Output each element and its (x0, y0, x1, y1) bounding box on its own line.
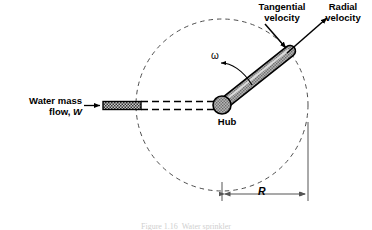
label-water-mass-flow-line2: flow, (49, 106, 73, 117)
label-tangential-velocity: Tangential velocity (246, 2, 318, 23)
inlet-pipe (103, 102, 141, 110)
tangential-velocity-arrow (265, 24, 286, 48)
label-radius-r: R (258, 186, 266, 198)
rotating-arm (222, 50, 290, 105)
radial-velocity-arrow (287, 18, 327, 53)
label-water-mass-flow-line1: Water mass (29, 95, 82, 106)
dimension-arrow-right (300, 192, 307, 197)
figure-rotating-arm-sprinkler: Tangential velocity Radial velocity Wate… (0, 0, 372, 230)
label-hub: Hub (205, 117, 249, 128)
label-radial-velocity: Radial velocity (314, 2, 372, 23)
label-omega-angular-velocity: ω (211, 50, 219, 61)
label-water-mass-flow-symbol: W (73, 106, 82, 117)
hub-circle (213, 96, 231, 114)
dimension-arrow-left (224, 192, 231, 197)
label-water-mass-flow: Water massflow, W (4, 96, 82, 117)
figure-caption-clipped: Figure 1.16 Water sprinkler (0, 222, 372, 230)
